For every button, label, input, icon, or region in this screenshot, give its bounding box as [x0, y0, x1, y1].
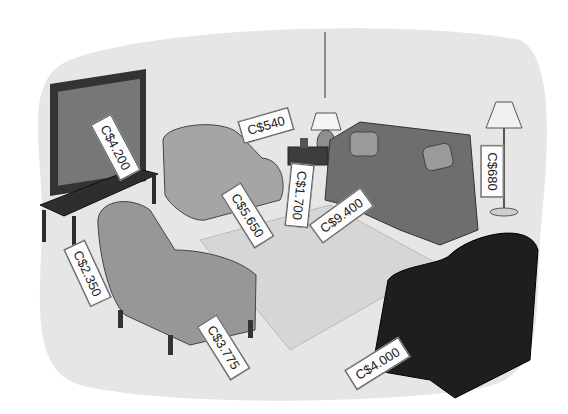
tv-stand-leg	[152, 176, 156, 204]
living-room-illustration	[0, 0, 568, 414]
sofa-pillow-icon	[422, 142, 454, 171]
tv-stand-leg	[72, 216, 76, 246]
tv-stand-leg	[42, 210, 46, 242]
price-tag-floor-lamp: C$680	[481, 145, 504, 197]
table-lamp-shade-icon	[311, 113, 341, 130]
sofa-pillow-icon	[350, 132, 378, 156]
price-tag-text: C$680	[485, 152, 500, 190]
armchair-leg	[248, 320, 253, 338]
price-tag-text: C$1.700	[290, 170, 310, 220]
floor-lamp-base	[490, 208, 518, 216]
picture-frame-icon	[300, 138, 308, 148]
armchair-leg	[168, 335, 173, 355]
armchair-leg	[118, 310, 123, 328]
